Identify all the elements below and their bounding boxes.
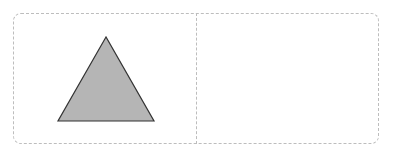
triangle-icon (58, 37, 154, 121)
triangle-shape-canvas (0, 0, 393, 154)
